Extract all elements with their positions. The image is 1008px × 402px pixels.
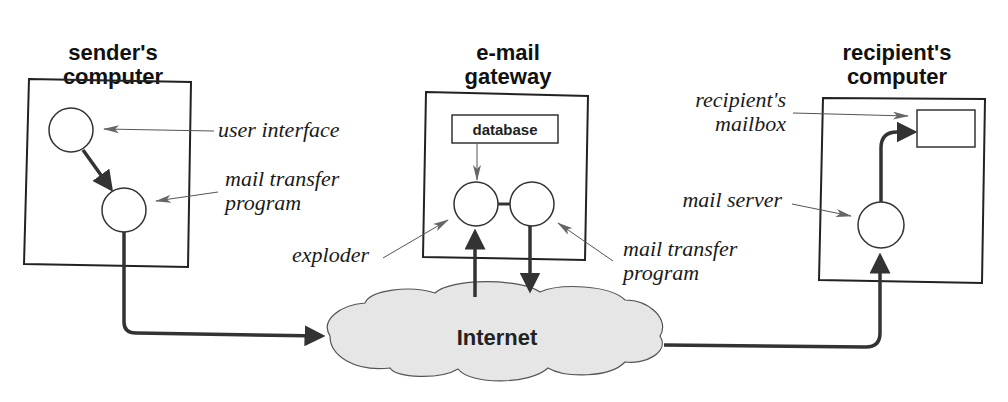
internet-cloud: Internet [327, 282, 662, 381]
database-label: database [472, 121, 537, 138]
sender-mtp-label-line1: mail transfer [225, 166, 340, 191]
exploder-label: exploder [292, 242, 369, 267]
user-interface-pointer [104, 129, 214, 131]
sender-mtp-label-line2: program [223, 190, 301, 215]
sender-box [24, 79, 191, 267]
exploder-node [454, 182, 498, 226]
recipient-title-line1: recipient's [842, 40, 951, 65]
sender-title-line1: sender's [68, 40, 158, 65]
mailbox-pointer [793, 113, 908, 116]
user-interface-label: user interface [218, 117, 340, 142]
sender-computer: sender's computer [24, 40, 191, 267]
mailbox-label-line2: mailbox [715, 111, 786, 136]
mailbox-label-line1: recipient's [695, 87, 786, 112]
sender-title-line2: computer [63, 64, 164, 89]
mail-server-label: mail server [682, 187, 782, 212]
gateway-title-line1: e-mail [476, 40, 540, 65]
gateway-title-line2: gateway [465, 64, 553, 89]
internet-label: Internet [457, 325, 538, 350]
email-gateway-diagram: sender's computer e-mail gateway databas… [0, 0, 1008, 402]
server-to-mailbox-arrow [881, 132, 914, 202]
gateway-mtp-label-line1: mail transfer [623, 236, 738, 261]
gateway-mtp-label-line2: program [621, 260, 699, 285]
sender-mtp-node [102, 188, 146, 232]
recipient-title-line2: computer [847, 64, 948, 89]
exploder-pointer [383, 220, 448, 258]
recipient-computer: recipient's computer [819, 40, 985, 283]
mail-server-node [858, 202, 904, 248]
sender-mtp-pointer [156, 192, 218, 201]
user-interface-node [49, 108, 93, 152]
gateway-mtp-node [510, 182, 554, 226]
ui-to-mtp-arrow [83, 150, 111, 189]
mailbox-box [917, 110, 975, 147]
